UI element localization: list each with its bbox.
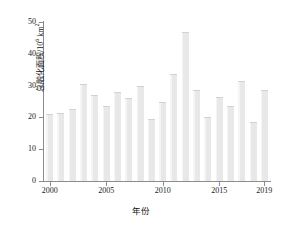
bar [193, 90, 200, 181]
x-tick-label: 2010 [148, 186, 178, 195]
bar [159, 102, 166, 182]
bar [125, 98, 132, 181]
y-tick-label: 10 [20, 145, 36, 153]
bar [46, 114, 53, 181]
bar [57, 113, 64, 181]
y-axis-title-exponent: 6 [34, 39, 40, 42]
y-tick-label: 20 [20, 113, 36, 121]
bar [182, 32, 189, 181]
y-tick-label: 0 [20, 177, 36, 185]
plot-area [44, 22, 270, 181]
x-tick-label: 2005 [91, 186, 121, 195]
x-tick-label: 2015 [204, 186, 234, 195]
bar [238, 81, 245, 181]
bar [204, 117, 211, 181]
x-tick-label: 2000 [35, 186, 65, 195]
bar [137, 86, 144, 181]
bar [148, 119, 155, 181]
x-axis-line [43, 181, 271, 182]
bar [250, 122, 257, 181]
bar [261, 90, 268, 181]
x-axis-title: 年份 [0, 204, 282, 216]
x-tick-label: 2019 [249, 186, 279, 195]
bar [227, 106, 234, 181]
bar [170, 74, 177, 181]
bar [80, 84, 87, 181]
y-axis-title-unit-exponent: 2 [34, 24, 40, 27]
y-tick-mark [39, 149, 43, 150]
bar [69, 109, 76, 181]
chart-figure: 01020304050 20002005201020152019 总融化面积/1… [0, 0, 282, 232]
bar [114, 92, 121, 181]
bar [216, 97, 223, 181]
bar [103, 106, 110, 181]
y-tick-mark [39, 181, 43, 182]
y-tick-mark [39, 117, 43, 118]
bar [91, 95, 98, 181]
